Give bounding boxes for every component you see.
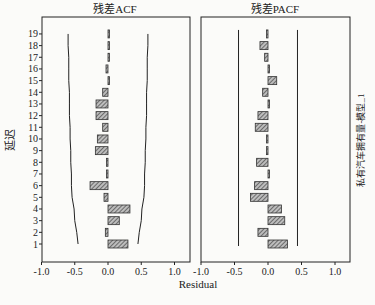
y-tick-label: 16: [28, 63, 38, 74]
acf-upper-confidence-limit: [138, 34, 148, 244]
bar-lag-16: [106, 65, 108, 73]
y-tick-label: 15: [28, 75, 38, 86]
y-tick-label: 5: [33, 192, 38, 203]
y-tick-label: 4: [33, 203, 38, 214]
bar-lag-1: [108, 240, 128, 248]
bar-lag-16: [268, 65, 270, 73]
bar-lag-3: [268, 217, 285, 225]
bar-lag-4: [268, 205, 281, 213]
bar-lag-2: [258, 228, 268, 236]
y-tick-label: 3: [33, 215, 38, 226]
y-tick-label: 17: [28, 52, 38, 63]
x-tick-label: 1.0: [168, 266, 181, 277]
bar-lag-14: [103, 88, 108, 96]
bar-lag-9: [267, 147, 269, 155]
x-tick-label: 0.5: [295, 266, 308, 277]
y-tick-label: 10: [28, 133, 38, 144]
y-tick-label: 9: [33, 145, 38, 156]
bar-lag-6: [255, 182, 268, 190]
bar-lag-1: [268, 240, 287, 248]
x-tick-label: 1.0: [329, 266, 342, 277]
y-tick-label: 7: [33, 168, 38, 179]
y-tick-label: 13: [28, 98, 38, 109]
bar-lag-12: [258, 112, 268, 120]
x-axis-label: Residual: [179, 278, 218, 290]
acf-x-axis: -1.0-0.50.00.51.0: [34, 262, 181, 277]
x-tick-label: 0.0: [262, 266, 275, 277]
y-tick-label: 12: [28, 110, 38, 121]
model-side-label: 私有汽车拥有量-模型_1: [355, 94, 366, 187]
acf-title: 残差ACF: [93, 2, 136, 15]
bar-lag-13: [268, 100, 270, 108]
bar-lag-10: [97, 135, 108, 143]
bar-lag-17: [265, 53, 268, 61]
acf-pacf-chart: 残差ACF 残差PACF 123456789101112131415161718…: [0, 0, 375, 305]
y-tick-label: 18: [28, 40, 38, 51]
x-tick-label: -1.0: [34, 266, 50, 277]
bar-lag-18: [260, 42, 268, 50]
bar-lag-19: [267, 30, 269, 38]
pacf-x-axis: -1.0-0.50.00.51.0: [193, 262, 341, 277]
bar-lag-17: [108, 53, 110, 61]
x-tick-label: 0.5: [135, 266, 148, 277]
bar-lag-2: [105, 228, 108, 236]
bar-lag-3: [108, 217, 119, 225]
bar-lag-4: [108, 205, 130, 213]
x-tick-label: 0.0: [102, 266, 115, 277]
bar-lag-7: [268, 170, 270, 178]
bar-lag-9: [95, 147, 108, 155]
bar-lag-5: [251, 193, 268, 201]
acf-bars: [90, 30, 130, 248]
bar-lag-5: [104, 193, 108, 201]
bar-lag-7: [107, 170, 109, 178]
pacf-bars: [251, 30, 288, 248]
x-tick-label: -0.5: [67, 266, 83, 277]
y-tick-label: 1: [33, 239, 38, 250]
acf-lower-confidence-limit: [68, 34, 78, 244]
bar-lag-8: [257, 158, 268, 166]
y-tick-label: 19: [28, 28, 38, 39]
y-tick-label: 11: [28, 122, 38, 133]
bar-lag-11: [103, 123, 108, 131]
bar-lag-15: [268, 77, 277, 85]
pacf-title: 残差PACF: [251, 2, 300, 15]
y-tick-label: 2: [33, 227, 38, 238]
bar-lag-12: [96, 112, 108, 120]
x-tick-label: -0.5: [227, 266, 243, 277]
y-tick-label: 14: [28, 87, 38, 98]
acf-y-axis: 12345678910111213141516171819: [28, 28, 42, 249]
bar-lag-14: [263, 88, 268, 96]
y-tick-label: 6: [33, 180, 38, 191]
bar-lag-18: [108, 42, 110, 50]
y-axis-label: 延迟: [4, 129, 16, 151]
bar-lag-10: [267, 135, 269, 143]
acf-plot-frame: [42, 17, 190, 262]
bar-lag-19: [108, 30, 110, 38]
x-tick-label: -1.0: [193, 266, 209, 277]
y-tick-label: 8: [33, 157, 38, 168]
bar-lag-11: [255, 123, 268, 131]
bar-lag-8: [107, 158, 109, 166]
bar-lag-15: [108, 77, 110, 85]
bar-lag-13: [96, 100, 108, 108]
bar-lag-6: [90, 182, 108, 190]
pacf-plot-frame: [201, 17, 350, 262]
